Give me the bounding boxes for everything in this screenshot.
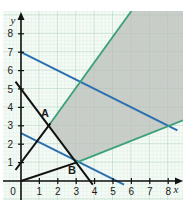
x-tick-2: 2 <box>55 186 61 197</box>
x-tick-3: 3 <box>73 186 79 197</box>
x-tick-6: 6 <box>129 186 135 197</box>
y-tick-8: 8 <box>7 28 13 39</box>
y-tick-1: 1 <box>7 157 13 168</box>
y-axis-label: y <box>10 14 16 26</box>
y-tick-3: 3 <box>7 120 13 131</box>
point-a-label: A <box>41 107 49 119</box>
y-tick-4: 4 <box>7 102 13 113</box>
point-b-label: B <box>68 164 76 176</box>
graph-plot: 1 2 3 4 5 6 7 8 0 x 1 2 3 4 5 6 7 8 y A … <box>0 0 188 206</box>
x-tick-7: 7 <box>147 186 153 197</box>
origin-label: 0 <box>10 186 16 197</box>
y-tick-2: 2 <box>7 139 13 150</box>
x-tick-1: 1 <box>37 186 43 197</box>
x-tick-4: 4 <box>92 186 98 197</box>
x-tick-8: 8 <box>165 186 171 197</box>
x-tick-5: 5 <box>110 186 116 197</box>
y-tick-7: 7 <box>7 47 13 58</box>
x-axis-label: x <box>173 183 179 195</box>
y-tick-5: 5 <box>7 84 13 95</box>
y-tick-6: 6 <box>7 65 13 76</box>
